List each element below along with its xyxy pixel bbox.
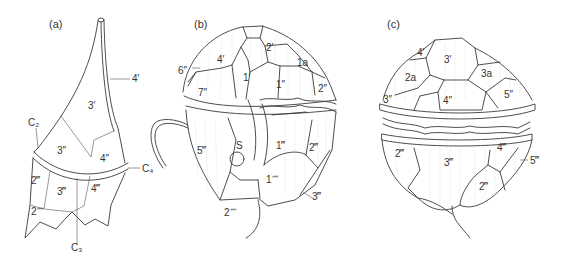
plate-label-5-double-prime: 5″ <box>504 90 513 100</box>
panel-b-label: (b) <box>194 19 207 30</box>
plate-label-4-double-prime: 4″ <box>443 96 452 106</box>
plate-label-6-double-prime: 6″ <box>178 66 187 76</box>
cingulum-label-c2: C₂ <box>28 118 39 128</box>
plate-label-3a: 3a <box>481 69 492 79</box>
plate-label-7-double-prime: 7″ <box>198 88 207 98</box>
plate-label-1a: 1a <box>297 58 308 68</box>
plate-label-3-triple-prime: 3‴ <box>444 158 453 168</box>
plate-label-3-double-prime: 3″ <box>57 146 66 156</box>
plate-label-2-quadruple-prime: 2⁗ <box>224 208 237 218</box>
plate-label-1-prime: 1′ <box>243 73 250 83</box>
plate-label-3-triple-prime: 3‴ <box>57 187 66 197</box>
plate-label-2-triple-prime: 2‴ <box>309 143 318 153</box>
panel-a-label: (a) <box>49 19 62 30</box>
plate-label-2-prime: 2′ <box>266 43 273 53</box>
plate-label-4-prime-callout: 4′ <box>132 74 139 84</box>
plate-label-3-triple-prime: 3‴ <box>312 192 321 202</box>
plate-label-2-triple-prime-left: 2‴ <box>395 149 404 159</box>
cingulum-label-c4: C₄ <box>142 164 153 174</box>
plate-label-1-triple-prime: 1‴ <box>276 141 285 151</box>
plate-label-4-triple-prime: 4‴ <box>91 184 100 194</box>
plate-label-2a: 2a <box>405 73 416 83</box>
figure-drawing <box>0 0 565 261</box>
plate-label-1-quadruple-prime: 1⁗ <box>266 175 279 185</box>
cingulum-label-c3: C₃ <box>71 243 82 253</box>
plate-label-4-prime: 4′ <box>217 55 224 65</box>
plate-label-3-prime: 3′ <box>88 101 95 111</box>
plate-label-3-prime: 3′ <box>444 55 451 65</box>
plate-label-3-double-prime: 3″ <box>383 95 392 105</box>
panel-b-drawing <box>151 26 336 238</box>
plate-label-4-double-prime: 4″ <box>100 154 109 164</box>
plate-label-4-triple-prime: 4‴ <box>497 143 506 153</box>
plate-label-s: S <box>236 141 243 151</box>
plate-label-1-double-prime: 1″ <box>276 80 285 90</box>
plate-label-2-triple-prime-right: 2‴ <box>479 182 488 192</box>
panel-c-label: (c) <box>387 19 400 30</box>
plate-label-4-prime: 4′ <box>417 48 424 58</box>
plate-label-5-triple-prime-callout: 5‴ <box>530 156 539 166</box>
panel-c-drawing <box>380 38 535 238</box>
plate-label-2-triple-prime: 2‴ <box>31 176 40 186</box>
plate-label-2-quadruple-prime: 2⁗ <box>31 207 44 217</box>
plate-label-2-double-prime: 2″ <box>318 84 327 94</box>
plate-label-5-triple-prime: 5‴ <box>197 146 206 156</box>
